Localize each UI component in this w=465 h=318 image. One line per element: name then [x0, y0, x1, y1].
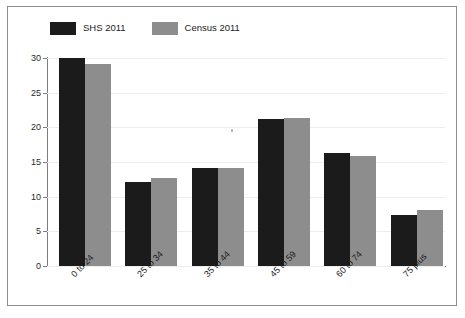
plot-area: 051015202530 — [47, 58, 445, 266]
bar-group — [180, 58, 246, 266]
legend-entry-census: Census 2011 — [152, 22, 240, 35]
legend-swatch-shs-icon — [50, 22, 76, 35]
y-axis-tick-label: 0 — [36, 261, 41, 271]
bar-census-2011[interactable] — [350, 156, 376, 266]
scan-artifact — [231, 129, 233, 132]
bar-shs-2011[interactable] — [324, 153, 350, 266]
y-axis-tick-label: 5 — [36, 226, 41, 236]
bar-group — [246, 58, 312, 266]
legend-swatch-census-icon — [152, 22, 178, 35]
chart-legend: SHS 2011 Census 2011 — [50, 21, 240, 35]
bar-group — [379, 58, 445, 266]
bar-group — [312, 58, 378, 266]
y-axis-tick-label: 10 — [31, 192, 41, 202]
y-axis-tick-label: 20 — [31, 122, 41, 132]
bar-group — [113, 58, 179, 266]
gridline — [47, 266, 445, 267]
bar-shs-2011[interactable] — [59, 58, 85, 266]
bar-census-2011[interactable] — [284, 118, 310, 266]
legend-label-census: Census 2011 — [185, 23, 240, 33]
bar-shs-2011[interactable] — [192, 168, 218, 266]
figure-container: SHS 2011 Census 2011 Percentage in age g… — [0, 0, 465, 318]
legend-entry-shs: SHS 2011 — [50, 22, 126, 35]
y-axis-tick-label: 15 — [31, 157, 41, 167]
legend-label-shs: SHS 2011 — [83, 23, 126, 33]
bar-shs-2011[interactable] — [258, 119, 284, 266]
bar-census-2011[interactable] — [85, 64, 111, 266]
bar-shs-2011[interactable] — [125, 182, 151, 266]
y-axis-tick-mark — [43, 266, 47, 267]
bar-group — [47, 58, 113, 266]
y-axis-tick-label: 25 — [31, 88, 41, 98]
y-axis-tick-label: 30 — [31, 53, 41, 63]
